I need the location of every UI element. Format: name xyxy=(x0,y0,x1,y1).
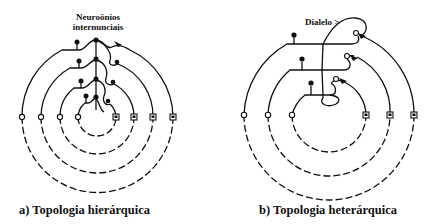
ring-b3-lower xyxy=(292,115,366,152)
panel-a-neurons xyxy=(75,37,123,103)
ring-b1-right xyxy=(362,36,414,115)
ring-b3-right xyxy=(344,82,366,115)
input-node-icon xyxy=(75,114,80,119)
input-node-icon xyxy=(265,112,270,117)
panel-b-neurons xyxy=(291,32,366,85)
dialelo-label: Dialelo > xyxy=(305,17,339,27)
ring-a3-lower xyxy=(60,117,134,154)
interneuron-label-line2: internunciais xyxy=(68,22,128,32)
caption-panel-b: b) Topologia heterárquica xyxy=(259,203,397,218)
input-node-icon xyxy=(57,114,62,119)
input-node-icon xyxy=(241,112,246,117)
ring-a1-right xyxy=(130,50,173,117)
interneuron-label: Neuroônios internunciais xyxy=(68,12,128,32)
input-node-icon xyxy=(38,114,43,119)
ring-b2-lower xyxy=(268,115,390,176)
caption-panel-a: a) Topologia hierárquica xyxy=(19,203,150,218)
input-node-icon xyxy=(289,112,294,117)
ring-a2-lower xyxy=(41,117,153,173)
ring-b3-upper xyxy=(292,95,323,115)
ring-a1-lower xyxy=(22,117,173,193)
ring-a4-lower xyxy=(78,117,116,136)
ring-b2-right xyxy=(357,57,390,115)
input-node-icon xyxy=(19,114,24,119)
panel-b-diagram xyxy=(244,18,414,200)
ring-a3-right xyxy=(114,84,134,117)
interneuron-label-line1: Neuroônios xyxy=(68,12,128,22)
ring-b1-upper xyxy=(244,44,323,115)
diagram-canvas xyxy=(0,0,439,224)
ring-a1-upper xyxy=(22,50,79,117)
